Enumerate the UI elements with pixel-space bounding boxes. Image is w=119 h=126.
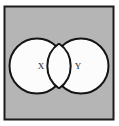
set-y-label: Y: [75, 61, 82, 71]
set-x-label: X: [38, 61, 45, 71]
venn-diagram-figure: X Y: [0, 0, 119, 126]
venn-diagram-canvas: X Y: [0, 0, 119, 126]
